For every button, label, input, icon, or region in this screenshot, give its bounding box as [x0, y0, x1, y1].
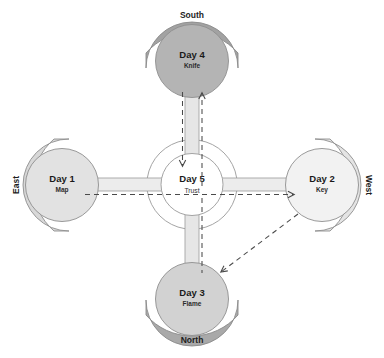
node-center[interactable]: Day 5 Trust	[147, 140, 236, 228]
node-day3-title: Day 3	[179, 287, 204, 298]
radial-diagram: Day 4 Knife South Day 3 Flame North Day …	[0, 0, 384, 358]
node-day2[interactable]: Day 2 Key West	[286, 139, 375, 231]
node-center-circle	[161, 154, 223, 216]
direction-label-west: West	[364, 175, 374, 195]
node-day1-subtitle: Map	[56, 186, 69, 194]
direction-label-south: South	[180, 10, 204, 20]
arrow-day2-to-day3	[221, 214, 298, 272]
node-day4-circle	[156, 25, 229, 98]
node-day3-subtitle: Flame	[183, 300, 202, 307]
node-day2-subtitle: Key	[316, 186, 328, 194]
node-day4-subtitle: Knife	[184, 62, 201, 69]
node-day1-circle	[26, 149, 99, 222]
direction-label-east: East	[11, 176, 21, 194]
node-day1-title: Day 1	[49, 173, 75, 184]
node-center-subtitle: Trust	[184, 187, 199, 194]
node-day2-circle	[286, 149, 359, 222]
node-day1[interactable]: Day 1 Map East	[11, 139, 99, 231]
node-day4[interactable]: Day 4 Knife South	[146, 10, 238, 98]
direction-label-north: North	[181, 335, 204, 345]
diagram-canvas: Day 4 Knife South Day 3 Flame North Day …	[0, 0, 384, 358]
node-day4-title: Day 4	[179, 49, 205, 60]
node-day2-title: Day 2	[309, 173, 334, 184]
node-day3-circle	[156, 263, 229, 336]
node-day3[interactable]: Day 3 Flame North	[146, 263, 238, 347]
